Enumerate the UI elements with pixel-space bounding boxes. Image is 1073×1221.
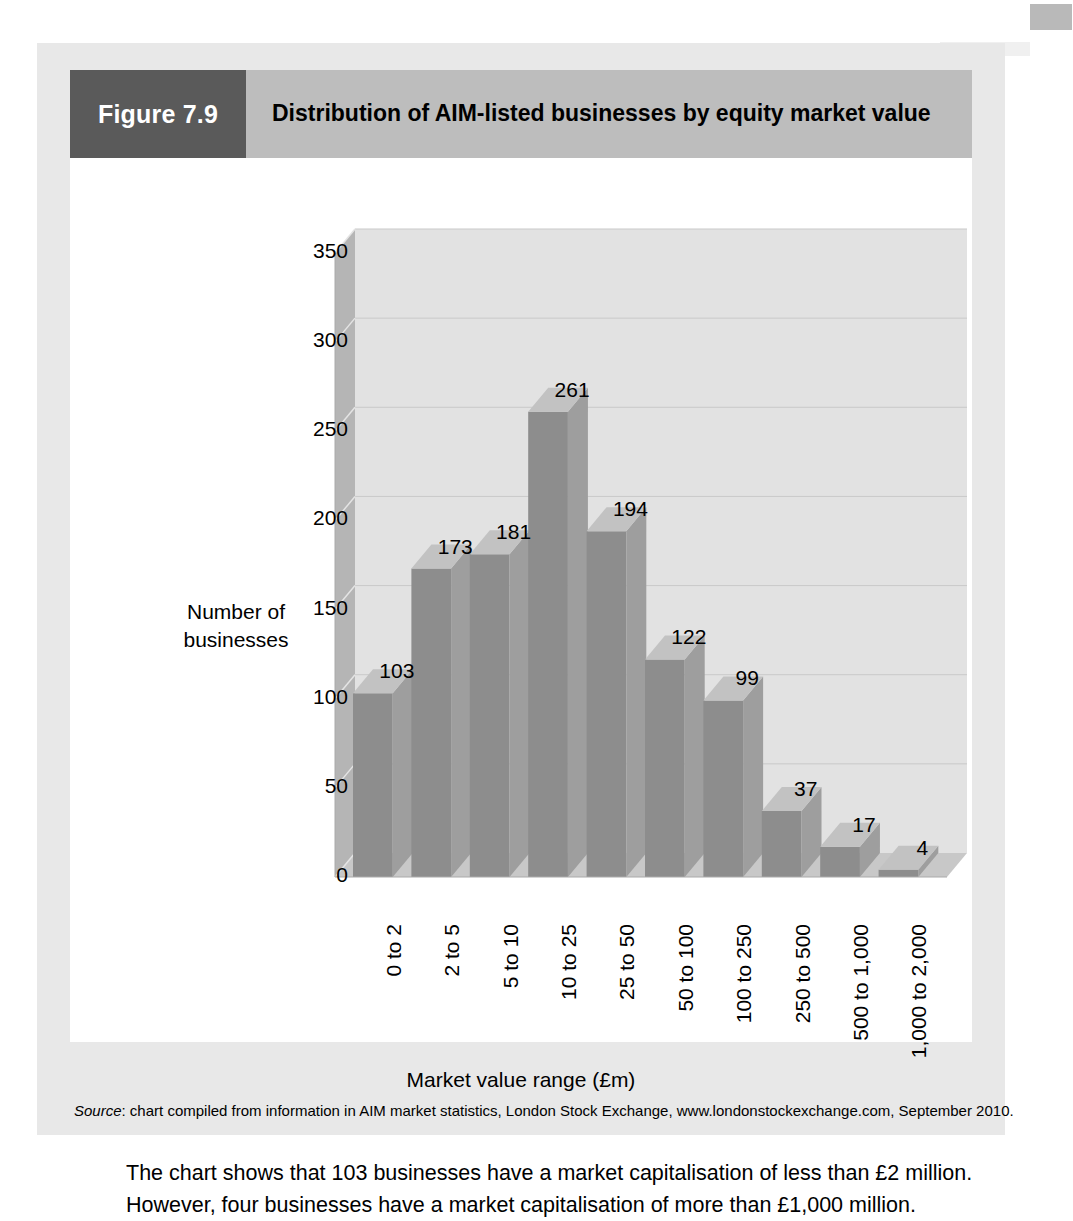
chart-canvas: 050100150200250300350 Number of business… <box>70 158 972 1042</box>
figure-header-band: Figure 7.9 Distribution of AIM-listed bu… <box>70 70 972 158</box>
x-axis-category-label: 250 to 500 <box>791 924 815 1023</box>
bar-value-label: 103 <box>379 659 414 683</box>
x-axis-category-label: 25 to 50 <box>615 924 639 1000</box>
bar-value-label: 173 <box>438 535 473 559</box>
bar-value-label: 37 <box>794 777 817 801</box>
bar-value-label: 181 <box>496 520 531 544</box>
source-text: : chart compiled from information in AIM… <box>122 1102 1014 1119</box>
figure-title: Distribution of AIM-listed businesses by… <box>272 99 931 128</box>
x-axis-category-label: 5 to 10 <box>499 924 523 988</box>
x-axis-title-text: Market value range (£m) <box>407 1068 636 1091</box>
bar-value-label: 17 <box>852 813 875 837</box>
bar-value-label: 122 <box>671 625 706 649</box>
x-axis-category-label: 1,000 to 2,000 <box>907 924 931 1058</box>
figure-source-note: Source: chart compiled from information … <box>74 1100 1034 1123</box>
x-axis-category-label: 50 to 100 <box>674 924 698 1012</box>
bar-value-label: 99 <box>736 666 759 690</box>
figure-number-box: Figure 7.9 <box>70 70 246 158</box>
bar-value-label: 194 <box>613 497 648 521</box>
x-axis-category-label: 10 to 25 <box>557 924 581 1000</box>
x-axis-category-label: 2 to 5 <box>440 924 464 977</box>
figure-panel: Figure 7.9 Distribution of AIM-listed bu… <box>37 43 1005 1135</box>
source-prefix-label: Source <box>74 1102 122 1119</box>
bar-value-label: 261 <box>555 378 590 402</box>
page-edge-artifact <box>1030 4 1072 30</box>
figure-caption: The chart shows that 103 businesses have… <box>126 1158 1006 1221</box>
x-axis-category-labels: 0 to 22 to 55 to 1010 to 2525 to 5050 to… <box>70 158 972 1042</box>
x-axis-category-label: 500 to 1,000 <box>849 924 873 1041</box>
x-axis-category-label: 0 to 2 <box>382 924 406 977</box>
figure-title-container: Distribution of AIM-listed businesses by… <box>246 70 972 158</box>
figure-number-label: Figure 7.9 <box>98 100 218 129</box>
x-axis-title: Market value range (£m) <box>70 1068 972 1092</box>
x-axis-category-label: 100 to 250 <box>732 924 756 1023</box>
bar-value-label: 4 <box>917 836 929 860</box>
